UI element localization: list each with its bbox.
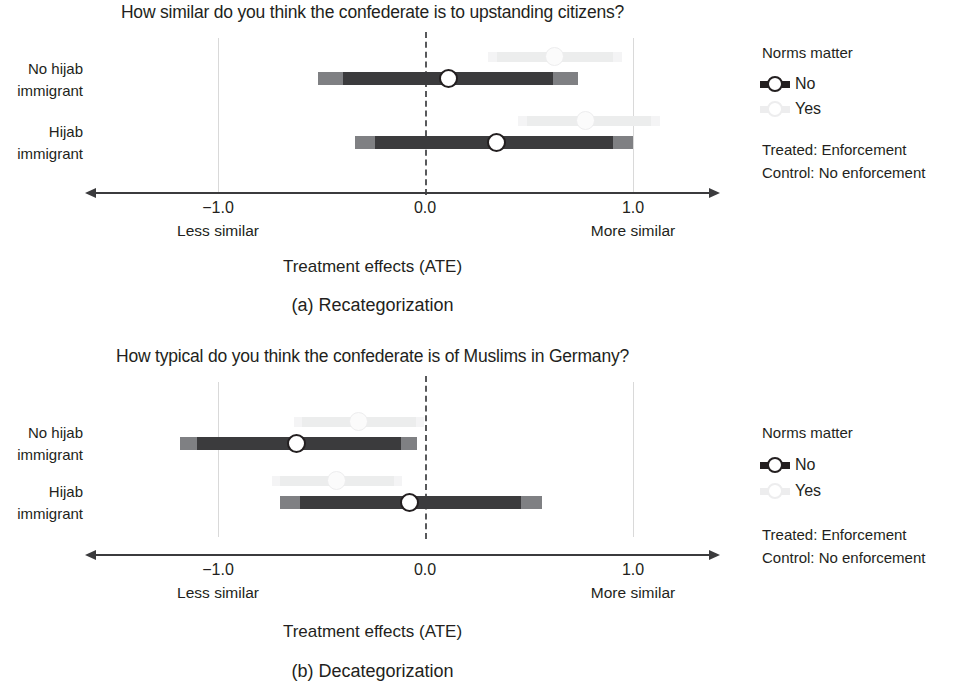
point-estimate-no-row0	[439, 69, 458, 88]
axis-arrow-right-icon	[709, 188, 720, 198]
legend-label-yes: Yes	[795, 482, 821, 500]
y-label-group-1: Hijab immigrant	[0, 481, 83, 525]
x-tick-label-zero: 0.0	[414, 561, 436, 579]
panel-decategorization: How typical do you think the confederate…	[0, 344, 957, 688]
gridline-neg1	[218, 382, 219, 537]
y-label-line1: No hijab	[28, 60, 83, 77]
legend-label-yes: Yes	[795, 100, 821, 118]
x-axis-sub-right: More similar	[591, 222, 675, 240]
x-tick-label-zero: 0.0	[414, 199, 436, 217]
y-label-line2: immigrant	[17, 145, 83, 162]
x-tick-label-pos1: 1.0	[622, 199, 644, 217]
zero-reference-line	[425, 376, 427, 539]
axis-arrow-left-icon	[85, 550, 96, 560]
point-estimate-no-row1	[487, 133, 506, 152]
point-estimate-yes-row1	[327, 471, 346, 490]
legend-marker-yes-icon	[760, 101, 790, 118]
legend-marker-yes-icon	[760, 483, 790, 500]
legend-marker-no-icon	[760, 76, 790, 93]
legend-title: Norms matter	[762, 424, 853, 441]
point-estimate-yes-row1	[576, 111, 595, 130]
x-axis-title: Treatment effects (ATE)	[0, 257, 745, 277]
x-axis-line	[95, 192, 710, 194]
legend-item-no[interactable]: No	[760, 75, 815, 93]
y-label-line1: No hijab	[28, 424, 83, 441]
zero-reference-line	[425, 32, 427, 195]
y-label-line2: immigrant	[17, 82, 83, 99]
point-estimate-yes-row0	[349, 412, 368, 431]
legend-note-treated: Treated: Enforcement	[762, 526, 907, 543]
axis-arrow-right-icon	[709, 550, 720, 560]
legend-title: Norms matter	[762, 44, 853, 61]
x-axis-line	[95, 554, 710, 556]
point-estimate-yes-row0	[545, 47, 564, 66]
legend-note-control: Control: No enforcement	[762, 549, 925, 566]
legend-note-treated: Treated: Enforcement	[762, 141, 907, 158]
x-tick-label-pos1: 1.0	[622, 561, 644, 579]
y-label-line2: immigrant	[17, 446, 83, 463]
x-tick-label-neg1: −1.0	[202, 199, 234, 217]
legend-item-yes[interactable]: Yes	[760, 482, 821, 500]
legend-marker-no-icon	[760, 457, 790, 474]
x-axis-sub-right: More similar	[591, 584, 675, 602]
gridline-pos1	[633, 382, 634, 537]
gridline-neg1	[218, 38, 219, 193]
legend-item-yes[interactable]: Yes	[760, 100, 821, 118]
point-estimate-no-row1	[400, 493, 419, 512]
panel-a-title: How similar do you think the confederate…	[0, 2, 745, 23]
legend-item-no[interactable]: No	[760, 456, 815, 474]
y-label-line2: immigrant	[17, 505, 83, 522]
y-label-group-0: No hijab immigrant	[0, 422, 83, 466]
panel-a-caption: (a) Recategorization	[0, 295, 745, 316]
legend-label-no: No	[795, 456, 815, 474]
x-axis-title: Treatment effects (ATE)	[0, 622, 745, 642]
point-estimate-no-row0	[287, 434, 306, 453]
y-label-group-0: No hijab immigrant	[0, 58, 83, 102]
x-tick-label-neg1: −1.0	[202, 561, 234, 579]
y-label-group-1: Hijab immigrant	[0, 121, 83, 165]
x-axis-sub-left: Less similar	[177, 584, 259, 602]
legend-label-no: No	[795, 75, 815, 93]
x-axis-sub-left: Less similar	[177, 222, 259, 240]
y-label-line1: Hijab	[49, 483, 83, 500]
panel-recategorization: How similar do you think the confederate…	[0, 0, 957, 344]
legend-note-control: Control: No enforcement	[762, 164, 925, 181]
y-label-line1: Hijab	[49, 123, 83, 140]
panel-b-caption: (b) Decategorization	[0, 661, 745, 682]
panel-b-title: How typical do you think the confederate…	[0, 346, 745, 367]
axis-arrow-left-icon	[85, 188, 96, 198]
